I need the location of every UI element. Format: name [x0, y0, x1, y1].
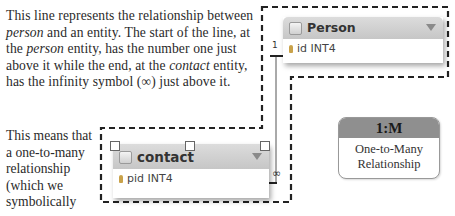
resize-handle-top-right[interactable] — [260, 141, 270, 151]
badge-description: One-to-Many Relationship — [339, 138, 439, 172]
table-icon — [289, 22, 302, 35]
resize-handle-top-center[interactable] — [185, 141, 195, 151]
entity-title: contact — [137, 149, 194, 165]
cardinality-one-label: 1 — [272, 40, 278, 50]
field-label: id INT4 — [297, 42, 336, 55]
field-label: pid INT4 — [127, 172, 173, 185]
entity-person[interactable]: Person id INT4 — [283, 17, 443, 63]
resize-handle-top-left[interactable] — [110, 141, 120, 151]
relationship-type-badge: 1:M One-to-Many Relationship — [338, 117, 440, 179]
entity-title: Person — [307, 20, 356, 35]
collapse-arrow-icon[interactable] — [426, 24, 436, 31]
entity-contact[interactable]: contact pid INT4 — [113, 144, 269, 198]
key-icon — [289, 45, 293, 53]
badge-line: Relationship — [339, 157, 439, 172]
cardinality-many-label: ∞ — [272, 167, 281, 180]
entity-header[interactable]: Person — [283, 17, 443, 39]
entity-field[interactable]: id INT4 — [283, 39, 443, 60]
entity-field[interactable]: pid INT4 — [113, 169, 269, 190]
key-icon — [119, 175, 123, 183]
table-icon — [119, 151, 132, 164]
collapse-arrow-icon[interactable] — [252, 153, 262, 160]
badge-title: 1:M — [339, 118, 439, 138]
badge-line: One-to-Many — [339, 142, 439, 157]
